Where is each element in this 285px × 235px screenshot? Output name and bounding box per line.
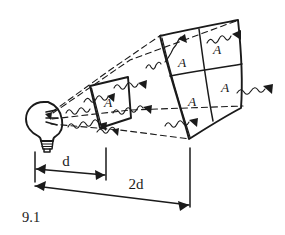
far-panel-cell-label-top-left: A [177, 55, 187, 70]
wavy-ray-5-squiggle [113, 106, 143, 115]
figure-9-1: A A A A A [0, 0, 285, 235]
wavy-ray-11 [146, 62, 161, 69]
wavy-ray-11-squiggle [146, 62, 161, 69]
distance-d [35, 148, 106, 182]
dim-d-arrow-left [36, 164, 46, 174]
bulb-glass [26, 102, 62, 141]
wavy-ray-7-arrowhead [232, 30, 241, 40]
dim-2d-line [35, 186, 189, 205]
wavy-ray-4-arrowhead [138, 80, 147, 89]
dim-d-line [36, 169, 105, 175]
wavy-ray-9-arrowhead [189, 118, 198, 127]
light-bulb-icon [26, 102, 62, 152]
far-panel-cell-label-top-right: A [212, 42, 222, 57]
figure-caption: 9.1 [22, 209, 40, 225]
bulb-ray-arrow [45, 112, 52, 120]
wavy-ray-2-squiggle [66, 108, 90, 115]
dim-d-label: d [62, 153, 70, 169]
far-panel-cell-label-bottom-left: A [187, 94, 197, 109]
dim-2d-label: 2d [129, 176, 145, 192]
wavy-ray-2 [66, 108, 90, 115]
dim-2d-arrow-left [35, 181, 46, 191]
dim-d-arrow-right [95, 170, 105, 180]
wavy-ray-4 [114, 80, 147, 89]
far-panel-left-edge-2 [162, 38, 190, 137]
cone-line-bottom [51, 124, 190, 139]
distance-2d [35, 148, 190, 211]
wavy-ray-4-squiggle [114, 83, 138, 90]
bulb-base [41, 141, 53, 149]
far-panel-cell-label-bottom-right: A [220, 80, 230, 95]
dim-2d-arrow-right [178, 201, 189, 211]
inverse-square-law-diagram: A A A A A [0, 0, 285, 235]
wavy-ray-9 [165, 118, 198, 127]
